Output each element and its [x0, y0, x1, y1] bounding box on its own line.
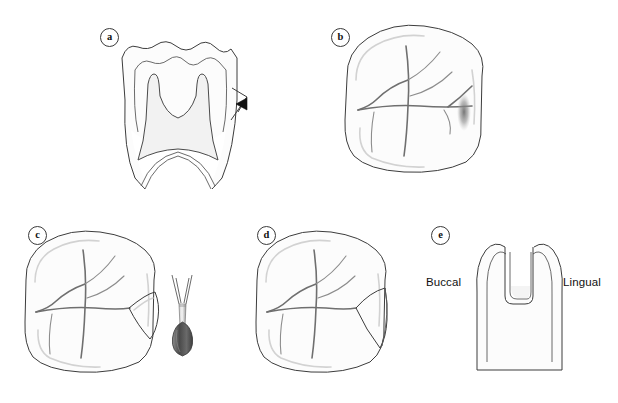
panel-label-e: e — [431, 226, 450, 245]
lesion-arrow-icon — [236, 98, 247, 110]
panel-label-c: c — [28, 226, 47, 245]
panel-e-proximal-section: e Buccal Lingual — [415, 200, 618, 403]
panel-d-extended-preparation: d — [230, 200, 415, 403]
bur-head — [172, 322, 192, 356]
carious-lesion-shadow — [457, 93, 471, 131]
dental-figure-canvas: a — [0, 0, 618, 403]
panel-label-b: b — [331, 28, 350, 47]
buccal-label: Buccal — [426, 276, 461, 288]
panel-label-d: d — [257, 226, 276, 245]
panel-a-drawing — [0, 0, 300, 200]
panel-a-buccolingual-section: a — [0, 0, 300, 200]
panel-b-drawing — [300, 0, 618, 200]
panel-c-initial-preparation: c — [0, 200, 230, 403]
panel-label-a: a — [100, 28, 119, 47]
lingual-label: Lingual — [563, 276, 601, 288]
panel-b-occlusal-lesion: b — [300, 0, 618, 200]
pear-bur-instrument — [172, 275, 193, 356]
